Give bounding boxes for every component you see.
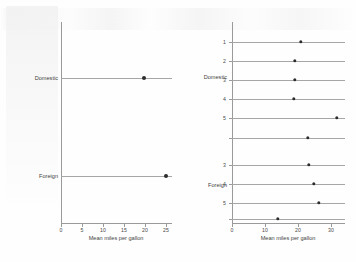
right-x-axis-title: Mean miles per gallon [261,235,316,241]
right-x-ticklabel: 10 [262,227,268,233]
scan-artifact-band [0,8,356,30]
left-x-axis-title: Mean miles per gallon [89,235,144,241]
right-y-tick [229,203,232,204]
right-y-tick [229,165,232,166]
figure-canvas: 0 5 10 15 20 25 Mean miles per gallon Do… [0,0,356,262]
right-y-tick [229,80,232,81]
right-y-ticklabel: 5 [214,200,226,206]
left-row-label-domestic: Domestic [25,75,58,82]
right-row-line [232,165,345,166]
right-panel-y-axis [232,22,233,223]
right-y-tick [229,118,232,119]
right-data-point [293,59,296,62]
left-row-line-domestic [61,78,172,79]
right-y-ticklabel: 4 [214,181,226,187]
right-y-ticklabel: 3 [214,162,226,168]
left-x-ticklabel: 20 [142,227,148,233]
left-row-line-foreign [61,176,172,177]
left-data-point-domestic [142,76,146,80]
right-data-point [293,78,296,81]
left-data-point-foreign [164,174,168,178]
right-row-line [232,61,345,62]
right-y-tick [229,61,232,62]
left-x-ticklabel: 15 [121,227,127,233]
right-y-ticklabel: 2 [214,58,226,64]
right-data-point [317,201,320,204]
left-x-ticklabel: 10 [100,227,106,233]
right-x-ticklabel: 20 [295,227,301,233]
left-x-ticklabel: 0 [60,227,63,233]
right-x-ticklabel: 30 [328,227,334,233]
right-row-line [232,138,345,139]
left-row-label-foreign: Foreign [25,173,58,180]
right-y-tick [229,42,232,43]
right-data-point [335,116,338,119]
left-x-ticklabel: 25 [163,227,169,233]
right-data-point [306,136,309,139]
right-y-tick [229,184,232,185]
right-y-tick [229,138,232,139]
right-x-ticklabel: 0 [231,227,234,233]
right-row-line [232,184,345,185]
right-y-tick [229,99,232,100]
right-row-line [232,80,345,81]
right-y-ticklabel: 3 [214,77,226,83]
right-row-line [232,42,345,43]
right-row-line [232,118,345,119]
right-data-point [312,182,315,185]
left-x-ticklabel: 5 [81,227,84,233]
right-panel-x-axis [232,223,345,224]
right-row-line [232,219,345,220]
right-data-point [307,163,310,166]
left-panel-x-axis [61,223,172,224]
right-data-point [299,40,302,43]
right-row-line [232,99,345,100]
right-row-line [232,203,345,204]
right-y-ticklabel: 4 [214,96,226,102]
left-panel-y-axis [61,22,62,223]
right-y-ticklabel: 1 [214,39,226,45]
right-data-point [276,217,279,220]
right-y-ticklabel: 5 [214,115,226,121]
right-data-point [292,97,295,100]
right-y-tick [229,219,232,220]
